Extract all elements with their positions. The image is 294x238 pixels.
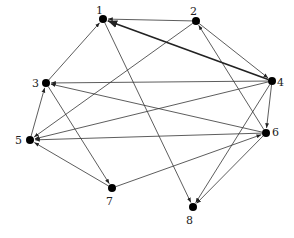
edge-6-to-2 [199,25,264,129]
node-7 [108,184,116,192]
node-label-3: 3 [32,77,39,90]
edge-layer [31,19,271,203]
edge-2-to-1 [108,19,192,21]
node-label-6: 6 [272,126,279,139]
edge-6-to-5 [35,133,262,140]
node-label-5: 5 [15,134,22,147]
edge-4-to-6 [267,85,272,128]
edge-3-to-1 [49,23,100,80]
edge-4-to-3 [51,81,268,83]
edge-4-to-5 [35,82,268,139]
edge-7-to-6 [116,135,262,187]
node-label-2: 2 [190,5,197,18]
directed-graph: 12345678 [0,0,294,238]
node-3 [42,79,50,87]
node-8 [189,203,197,211]
node-2 [192,17,200,25]
node-label-7: 7 [106,195,113,208]
node-4 [268,77,276,85]
edge-2-to-4 [199,23,268,77]
node-label-4: 4 [277,76,284,89]
edge-3-to-7 [48,86,109,183]
edge-4-to-8 [196,84,270,202]
node-label-8: 8 [186,214,193,227]
edge-5-to-3 [31,88,45,136]
node-5 [26,136,34,144]
edge-4-to-1 [108,21,269,80]
node-label-1: 1 [96,4,103,17]
node-6 [262,129,270,137]
